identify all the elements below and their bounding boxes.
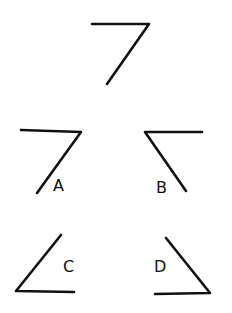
mental-rotation-diagram: A B C D xyxy=(0,0,232,313)
option-c-label: C xyxy=(63,257,74,276)
option-a-label: A xyxy=(53,176,64,195)
option-a[interactable]: A xyxy=(21,130,81,195)
option-d-label: D xyxy=(154,257,166,276)
option-d[interactable]: D xyxy=(154,238,210,294)
option-b-shape xyxy=(145,132,202,191)
reference-shape xyxy=(92,24,149,84)
option-c[interactable]: C xyxy=(16,235,74,292)
option-b[interactable]: B xyxy=(145,132,202,197)
option-b-label: B xyxy=(156,178,167,197)
option-a-shape xyxy=(21,130,81,193)
